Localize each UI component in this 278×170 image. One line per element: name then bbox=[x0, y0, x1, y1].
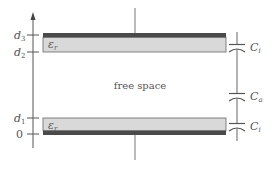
bottom-dielectric-layer bbox=[43, 118, 226, 131]
capacitor-label-ci-top: Ci bbox=[250, 41, 261, 55]
tick-label-d2: d2 bbox=[14, 46, 26, 60]
tick-label-zero: 0 bbox=[16, 128, 23, 141]
capacitor-ci-bottom: Ci bbox=[229, 120, 261, 134]
top-dielectric-slab: εr bbox=[43, 33, 226, 52]
bottom-dielectric-slab: εr bbox=[43, 118, 226, 135]
capacitor-chain: Ci Ca Ci bbox=[229, 32, 263, 141]
tick-label-d1: d1 bbox=[14, 112, 26, 126]
capacitor-label-ci-bottom: Ci bbox=[250, 120, 261, 134]
capacitor-diagram: d3 d2 d1 0 εr εr free space Ci Ca bbox=[0, 0, 278, 170]
capacitor-ca: Ca bbox=[229, 90, 263, 104]
tick-label-d3: d3 bbox=[14, 29, 26, 43]
capacitor-label-ca: Ca bbox=[250, 90, 263, 104]
capacitor-ci-top: Ci bbox=[229, 41, 261, 55]
top-dielectric-layer bbox=[43, 37, 226, 52]
top-electrode bbox=[43, 33, 226, 38]
axis-arrow-icon bbox=[31, 12, 36, 20]
free-space-label: free space bbox=[114, 80, 167, 91]
bottom-electrode bbox=[43, 131, 226, 136]
